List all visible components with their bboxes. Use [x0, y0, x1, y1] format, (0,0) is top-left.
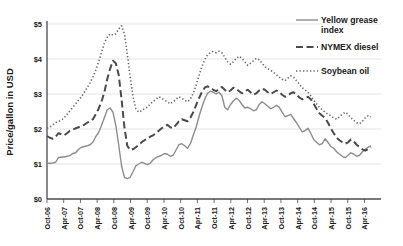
x-tick-label: Oct-13: [277, 207, 286, 229]
x-tick-label: Oct-11: [210, 207, 219, 229]
x-tick-label: Oct-06: [43, 207, 52, 229]
x-tick-label: Oct-07: [76, 207, 85, 229]
legend-label-continued: index: [321, 25, 344, 35]
x-tick-label: Oct-08: [110, 207, 119, 229]
x-tick-label: Apr-12: [227, 207, 236, 230]
x-tick-label: Apr-14: [294, 207, 303, 230]
x-tick-label: Apr-10: [160, 207, 169, 230]
y-tick-label: $0: [34, 195, 42, 204]
x-axis-tick-labels: Oct-06Apr-07Oct-07Apr-08Oct-08Apr-09Oct-…: [43, 207, 369, 230]
series-line-yellow-grease-index: [47, 91, 371, 179]
x-tick-label: Apr-13: [260, 207, 269, 230]
y-tick-label: $4: [34, 55, 43, 64]
x-tick-label: Apr-07: [60, 207, 69, 230]
y-tick-label: $5: [34, 20, 42, 29]
x-tick-label: Apr-11: [193, 207, 202, 229]
x-tick-label: Oct-09: [143, 207, 152, 229]
x-tick-label: Apr-09: [127, 207, 136, 230]
line-chart: $0$1$2$3$4$5 Oct-06Apr-07Oct-07Apr-08Oct…: [0, 0, 403, 246]
legend-item: NYMEX diesel: [296, 42, 378, 52]
y-tick-label: $1: [34, 160, 42, 169]
legend-label: NYMEX diesel: [321, 42, 378, 52]
y-axis-tick-labels: $0$1$2$3$4$5: [34, 20, 43, 204]
y-axis-title: Price/gallon in USD: [4, 68, 15, 156]
legend-label: Soybean oil: [321, 66, 369, 76]
x-tick-label: Oct-14: [310, 207, 319, 229]
legend-item: Soybean oil: [296, 66, 369, 76]
legend-label: Yellow grease: [321, 15, 378, 25]
x-tick-label: Apr-16: [360, 207, 369, 230]
x-tick-label: Apr-08: [93, 207, 102, 230]
x-tick-label: Oct-10: [177, 207, 186, 229]
x-tick-label: Oct-12: [244, 207, 253, 229]
y-tick-label: $3: [34, 90, 42, 99]
x-tick-label: Oct-15: [344, 207, 353, 229]
chart-container: $0$1$2$3$4$5 Oct-06Apr-07Oct-07Apr-08Oct…: [0, 0, 403, 246]
x-tick-label: Apr-15: [327, 207, 336, 230]
legend-item: Yellow greaseindex: [296, 15, 378, 35]
y-tick-label: $2: [34, 125, 42, 134]
